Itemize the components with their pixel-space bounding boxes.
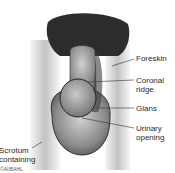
label-urinary-opening: Urinary opening (136, 124, 164, 142)
tip-shape (60, 79, 96, 117)
label-glans: Glans (136, 104, 157, 113)
label-coronal-ridge: Coronal ridge (136, 76, 164, 94)
label-scrotum: Scrotum containing (0, 146, 35, 164)
label-foreskin: Foreskin (136, 54, 167, 63)
anatomy-figure: Foreskin Coronal ridge Glans Urinary ope… (0, 0, 175, 173)
credit-text: ©AI/BAHL (0, 166, 23, 172)
